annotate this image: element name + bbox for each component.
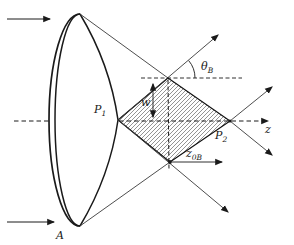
z0b-label: z0B [185,147,203,162]
p2-label: P2 [214,129,227,144]
lower-vertex-point [168,160,172,164]
axicon-lens-body [49,14,118,226]
ray-beyond-p2-up [230,87,272,121]
axicon-bessel-diagram: A P1 P2 θB w z0B z [0,0,294,245]
theta-b-label: θB [201,60,214,75]
p2-point [228,119,231,122]
z-axis-label: z [264,123,271,136]
bessel-zone-hatched-region [118,78,230,162]
theta-b-angle-arc [189,61,195,78]
beam-waist-w-label: w [141,96,151,109]
figure-canvas: A P1 P2 θB w z0B z [0,0,294,245]
lens-label-A: A [55,229,64,242]
